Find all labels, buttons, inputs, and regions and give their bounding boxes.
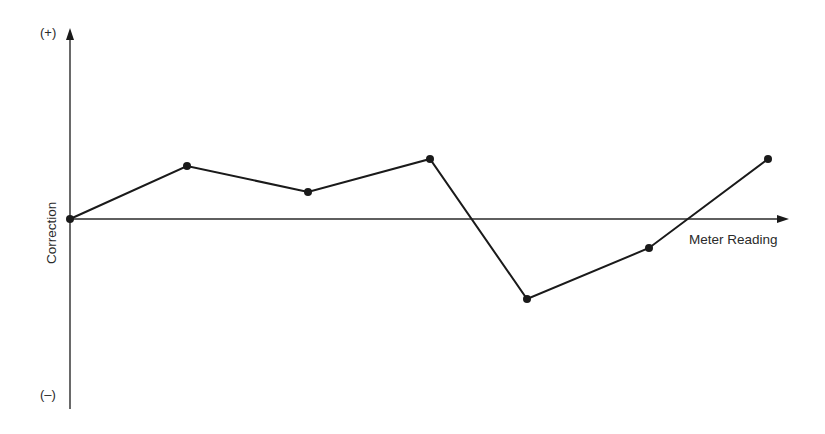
data-point-6 — [764, 155, 772, 163]
data-point-4 — [523, 295, 531, 303]
x-axis-label: Meter Reading — [689, 232, 778, 247]
data-point-3 — [426, 155, 434, 163]
y-positive-label: (+) — [40, 25, 56, 40]
chart-canvas — [0, 0, 825, 434]
x-axis-arrow-icon — [777, 215, 789, 223]
data-point-1 — [183, 162, 191, 170]
y-axis-arrow-icon — [66, 28, 74, 40]
x-axis — [70, 215, 789, 223]
data-point-2 — [304, 188, 312, 196]
correction-line — [70, 159, 768, 299]
y-axis-label: Correction — [44, 202, 59, 264]
data-series — [66, 155, 772, 303]
y-negative-label: (–) — [40, 387, 56, 402]
data-point-0 — [66, 215, 74, 223]
data-point-5 — [645, 244, 653, 252]
